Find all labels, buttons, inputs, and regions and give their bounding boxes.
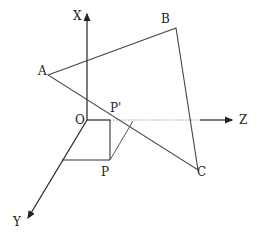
z-axis-label: Z <box>239 113 247 127</box>
triangle-abc <box>48 28 198 170</box>
p-to-z-slant <box>110 121 133 160</box>
x-axis-label: X <box>73 9 82 23</box>
vertex-b-label: B <box>161 12 170 26</box>
point-p-prime-label: P' <box>110 101 121 115</box>
geometry-diagram: X Z Y O A B C P P' <box>0 0 267 240</box>
origin-label: O <box>75 113 85 127</box>
vertex-a-label: A <box>37 64 47 78</box>
point-p-label: P <box>101 165 109 179</box>
y-axis <box>28 120 87 218</box>
vertex-c-label: C <box>197 165 206 179</box>
y-axis-label: Y <box>12 215 22 229</box>
